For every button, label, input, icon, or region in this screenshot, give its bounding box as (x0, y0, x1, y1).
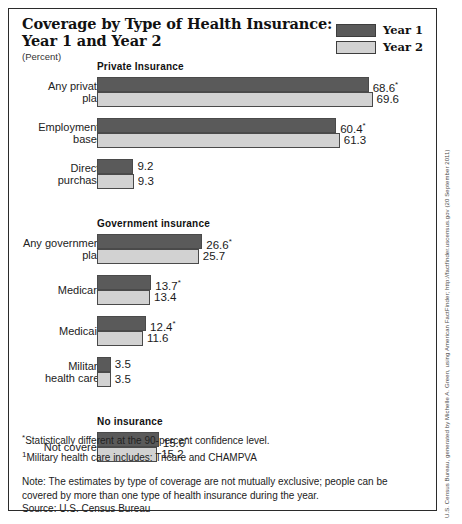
bar-year2[interactable] (97, 331, 143, 346)
row-bars: 26.6*25.7 (97, 234, 437, 264)
chart-row: Medicaid12.4*11.6 (9, 316, 436, 346)
bar-year1[interactable] (97, 357, 111, 372)
bar-line: 61.3 (97, 133, 437, 148)
bar-line: 26.6* (97, 234, 437, 249)
bar-value-label: 11.6 (143, 331, 169, 346)
row-label-line: Any private (0, 80, 103, 93)
row-label: Direct-purchase (0, 162, 103, 187)
bar-line: 13.4 (97, 290, 437, 305)
chart-row: Any governmentplan26.6*25.7 (9, 234, 436, 264)
row-label-line: Military (0, 360, 103, 373)
row-label-line: health care¹ (0, 372, 103, 385)
chart-row: Militaryhealth care¹3.53.5 (9, 357, 436, 387)
row-label: Medicaid (0, 325, 103, 338)
row-label-line: plan (0, 249, 103, 262)
group-title-government-insurance: Government insurance (97, 218, 210, 229)
bar-value-label: 9.3 (134, 174, 154, 189)
legend-label-year2: Year 2 (383, 40, 423, 54)
bar-line: 69.6 (97, 92, 437, 107)
bar-value-label: 68.6* (369, 77, 399, 92)
row-label-line: Medicare (0, 284, 103, 297)
bar-value-label: 61.3 (340, 133, 366, 148)
bar-year2[interactable] (97, 372, 111, 387)
chart-row: Employment-based60.4*61.3 (9, 118, 436, 148)
page-title-line2: Year 1 and Year 2 (22, 32, 332, 49)
bar-line: 3.5 (97, 357, 437, 372)
chart-row: Direct-purchase9.29.3 (9, 159, 436, 189)
footnote-military: 1Military health care includes: Tricare … (22, 448, 417, 465)
bar-line: 3.5 (97, 372, 437, 387)
row-bars: 9.29.3 (97, 159, 437, 189)
bar-value-label: 60.4* (336, 118, 366, 133)
bar-line: 12.4* (97, 316, 437, 331)
row-bars: 3.53.5 (97, 357, 437, 387)
bar-year2[interactable] (97, 133, 340, 148)
row-label: Militaryhealth care¹ (0, 360, 103, 385)
group-title-no-insurance: No insurance (97, 416, 163, 427)
bar-year2[interactable] (97, 290, 150, 305)
legend-swatch-year2 (336, 41, 376, 54)
footnote-text-statistical: Statistically different at the 90-percen… (25, 435, 269, 446)
bar-year2[interactable] (97, 92, 373, 107)
row-label-line: based (0, 133, 103, 146)
bar-line: 25.7 (97, 249, 437, 264)
notes-block: Note: The estimates by type of coverage … (22, 475, 422, 516)
bar-year1[interactable] (97, 275, 151, 290)
row-bars: 60.4*61.3 (97, 118, 437, 148)
bar-value-label: 3.5 (111, 372, 131, 387)
bar-line: 60.4* (97, 118, 437, 133)
row-label-line: plan (0, 92, 103, 105)
row-label-line: Direct- (0, 162, 103, 175)
row-label: Employment-based (0, 121, 103, 146)
significance-marker: * (229, 237, 232, 246)
row-label-line: Any government (0, 237, 103, 250)
bar-value-label: 26.6* (202, 234, 232, 249)
footnote-statistical: *Statistically different at the 90-perce… (22, 431, 417, 448)
bar-value-label: 9.2 (133, 159, 153, 174)
significance-marker: * (172, 319, 175, 328)
bar-line: 9.2 (97, 159, 437, 174)
group-title-private-insurance: Private Insurance (97, 61, 184, 72)
page-title-line1: Coverage by Type of Health Insurance: (22, 15, 332, 32)
bar-line: 13.7* (97, 275, 437, 290)
row-label: Any privateplan (0, 80, 103, 105)
chart-row: Medicare13.7*13.4 (9, 275, 436, 305)
bar-year1[interactable] (97, 159, 133, 174)
bar-value-label: 25.7 (199, 249, 225, 264)
bar-value-label: 12.4* (146, 316, 176, 331)
vertical-credit-text: U.S. Census Bureau, generated by Michell… (444, 149, 450, 518)
footnotes: *Statistically different at the 90-perce… (22, 431, 417, 465)
bar-value-label: 13.7* (151, 275, 181, 290)
bar-value-label: 13.4 (150, 290, 176, 305)
row-label: Any governmentplan (0, 237, 103, 262)
significance-marker: * (178, 278, 181, 287)
bar-year1[interactable] (97, 118, 336, 133)
bar-line: 11.6 (97, 331, 437, 346)
significance-marker: * (395, 80, 398, 89)
row-label: Medicare (0, 284, 103, 297)
legend-swatch-year1 (336, 24, 376, 37)
bar-year1[interactable] (97, 316, 146, 331)
bar-year1[interactable] (97, 234, 202, 249)
row-label-line: Medicaid (0, 325, 103, 338)
note-estimates: Note: The estimates by type of coverage … (22, 475, 422, 502)
bar-year1[interactable] (97, 77, 369, 92)
bar-year2[interactable] (97, 174, 134, 189)
bar-value-label: 3.5 (111, 357, 131, 372)
figure-root: Coverage by Type of Health Insurance: Ye… (0, 0, 462, 524)
bar-line: 68.6* (97, 77, 437, 92)
chart-row: Any privateplan68.6*69.6 (9, 77, 436, 107)
figure-header: Coverage by Type of Health Insurance: Ye… (9, 9, 436, 61)
legend-label-year1: Year 1 (383, 23, 423, 37)
legend-item-year1: Year 1 (336, 23, 423, 37)
row-bars: 12.4*11.6 (97, 316, 437, 346)
bar-line: 9.3 (97, 174, 437, 189)
row-label-line: purchase (0, 174, 103, 187)
significance-marker: * (363, 121, 366, 130)
figure-frame: Coverage by Type of Health Insurance: Ye… (8, 8, 437, 511)
row-bars: 68.6*69.6 (97, 77, 437, 107)
bar-year2[interactable] (97, 249, 199, 264)
footnote-text-military: Military health care includes: Tricare a… (26, 452, 256, 463)
bar-value-label: 69.6 (373, 92, 399, 107)
note-source: Source: U.S. Census Bureau (22, 502, 422, 516)
